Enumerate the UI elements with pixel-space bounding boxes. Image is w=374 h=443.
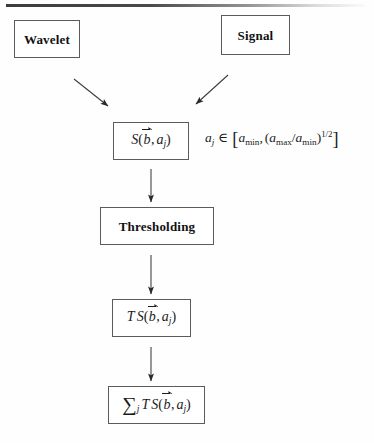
node-thresholding-label: Thresholding	[119, 220, 196, 233]
comma: ,	[171, 397, 175, 412]
node-scalogram: S(b,aj)	[113, 122, 189, 160]
thresholded-scale: a	[162, 309, 169, 324]
paren-close: )	[186, 397, 191, 412]
comma: ,	[156, 309, 160, 324]
comma: ,	[151, 132, 155, 147]
node-scalogram-math: S(b,aj)	[131, 133, 171, 150]
upper-denominator-subscript: min	[302, 137, 316, 147]
scan-artifact-line	[6, 4, 366, 7]
node-reconstruction: ∑jTS(b,aj)	[108, 386, 205, 424]
paren-close: )	[166, 132, 171, 147]
node-signal-label: Signal	[238, 29, 274, 42]
lower-bound-subscript: min	[245, 137, 259, 147]
arrow-signal-to-scalogram	[196, 75, 228, 104]
summation-index: j	[137, 404, 140, 414]
range-variable-subscript: j	[212, 137, 215, 147]
range-comma: ,	[259, 130, 262, 145]
node-thresholded-math: TS(b,aj)	[127, 310, 176, 327]
thresholded-function: S	[137, 309, 144, 324]
thresholded-vector-b: b	[148, 310, 156, 324]
reconstruction-operator: T	[141, 397, 149, 412]
reconstruction-vector-b: b	[163, 398, 171, 412]
range-variable: a	[205, 130, 212, 145]
summation-symbol: ∑	[122, 393, 136, 415]
range-exponent: 1/2	[321, 129, 332, 139]
node-wavelet-label: Wavelet	[24, 33, 70, 46]
upper-numerator-subscript: max	[276, 137, 292, 147]
diagram-canvas: Wavelet Signal S(b,aj) aj∈[amin,(amax/am…	[0, 0, 374, 443]
scalogram-vector-b: b	[143, 133, 151, 147]
node-reconstruction-math: ∑jTS(b,aj)	[122, 396, 190, 414]
node-thresholded: TS(b,aj)	[112, 299, 191, 337]
paren-close: )	[171, 309, 176, 324]
node-thresholding: Thresholding	[100, 207, 214, 245]
arrow-wavelet-to-scalogram	[74, 79, 108, 106]
membership-symbol: ∈	[218, 130, 228, 145]
node-wavelet: Wavelet	[14, 20, 80, 58]
node-signal: Signal	[221, 15, 290, 55]
bracket-close: ]	[333, 129, 339, 149]
scale-range-formula: aj∈[amin,(amax/amin)1/2]	[205, 129, 339, 150]
thresholded-operator: T	[127, 309, 135, 324]
